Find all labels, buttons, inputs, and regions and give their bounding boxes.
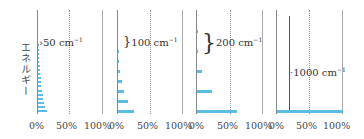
panel-100: }100 cm−1 bbox=[117, 10, 183, 114]
tick-0: 0% bbox=[269, 120, 284, 131]
axis-100 bbox=[262, 10, 263, 114]
y-axis-label: エネルギー bbox=[16, 42, 30, 97]
bar bbox=[38, 53, 39, 55]
bar bbox=[38, 77, 41, 79]
tick-50: 50% bbox=[217, 120, 238, 131]
bar bbox=[197, 30, 198, 33]
bar bbox=[197, 50, 198, 53]
panel-50: ›50 cm−1 bbox=[37, 10, 103, 114]
bar bbox=[38, 81, 41, 83]
bar bbox=[38, 65, 40, 67]
bar bbox=[197, 70, 202, 73]
bar bbox=[38, 61, 39, 63]
tick-0: 0% bbox=[189, 120, 204, 131]
spacing-bracket-line bbox=[289, 16, 290, 112]
bar bbox=[38, 94, 43, 96]
bar bbox=[38, 49, 39, 51]
bar bbox=[38, 102, 44, 104]
y-axis bbox=[196, 10, 197, 114]
bar bbox=[38, 57, 39, 59]
bar bbox=[118, 70, 120, 73]
bar bbox=[38, 110, 47, 112]
y-axis bbox=[276, 10, 277, 114]
tick-0: 0% bbox=[109, 120, 124, 131]
bar bbox=[277, 110, 343, 113]
bar bbox=[38, 98, 43, 100]
panel-1000: ·1000 cm−1 bbox=[276, 10, 343, 114]
axis-100 bbox=[182, 10, 183, 114]
bar bbox=[38, 90, 42, 92]
spacing-label: }200 cm−1 bbox=[202, 36, 262, 48]
tick-100: 100% bbox=[323, 120, 350, 131]
bar bbox=[38, 73, 40, 75]
bar bbox=[118, 50, 119, 53]
panel-200: }200 cm−1 bbox=[196, 10, 263, 114]
bar bbox=[118, 110, 134, 113]
spacing-label: ›50 cm−1 bbox=[39, 36, 83, 48]
gridline-50 bbox=[309, 10, 310, 114]
spacing-label: }100 cm−1 bbox=[123, 34, 178, 49]
gridline-50 bbox=[69, 10, 70, 114]
tick-0: 0% bbox=[29, 120, 44, 131]
bar bbox=[118, 90, 124, 93]
bar bbox=[118, 100, 128, 103]
gridline-50 bbox=[230, 10, 231, 114]
gridline-50 bbox=[150, 10, 151, 114]
bar bbox=[197, 110, 237, 113]
bar bbox=[38, 69, 40, 71]
tick-100: 100% bbox=[84, 120, 111, 131]
spacing-label: ·1000 cm−1 bbox=[290, 66, 346, 78]
bar bbox=[118, 60, 119, 63]
axis-100 bbox=[102, 10, 103, 114]
bar bbox=[118, 80, 122, 83]
tick-50: 50% bbox=[137, 120, 158, 131]
tick-50: 50% bbox=[56, 120, 77, 131]
bar bbox=[38, 85, 41, 87]
tick-50: 50% bbox=[296, 120, 317, 131]
bar bbox=[197, 90, 212, 93]
bar bbox=[38, 106, 45, 108]
axis-100 bbox=[342, 10, 343, 114]
